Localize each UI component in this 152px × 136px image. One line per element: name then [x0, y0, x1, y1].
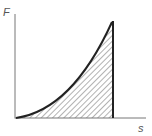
- x-axis-label: s: [138, 122, 144, 134]
- force-displacement-diagram: F s: [0, 0, 152, 136]
- y-axis-label: F: [3, 6, 11, 18]
- hatched-area: [16, 20, 114, 118]
